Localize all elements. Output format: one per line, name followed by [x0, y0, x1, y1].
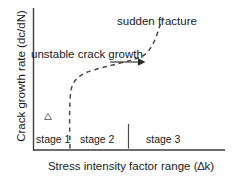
annotation-unstable-crack-growth: unstable crack growth [31, 48, 143, 60]
fatigue-crack-growth-diagram: Crack growth rate (dc/dN) Stress intensi… [0, 0, 236, 179]
y-axis-title: Crack growth rate (dc/dN) [15, 6, 27, 146]
threshold-triangle-marker [44, 114, 51, 120]
stage-1-label: stage 1 [36, 133, 70, 145]
stage-2-label: stage 2 [80, 133, 114, 145]
crack-growth-curve [70, 18, 163, 149]
stage-3-label: stage 3 [146, 133, 180, 145]
x-axis-title: Stress intensity factor range (∆k) [33, 160, 229, 172]
annotation-sudden-fracture: sudden fracture [117, 15, 197, 27]
